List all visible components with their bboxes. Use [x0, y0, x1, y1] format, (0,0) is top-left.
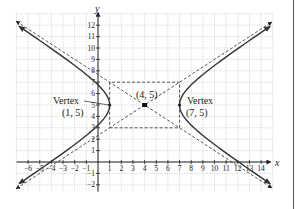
x-axis-label: x [274, 157, 280, 168]
x-tick-label: 8 [189, 164, 193, 173]
y-tick-label: 9 [91, 55, 95, 64]
center-label: (4, 5) [136, 89, 158, 101]
y-axis-label: y [94, 3, 100, 14]
vertex-right-point [178, 103, 181, 106]
x-tick-label: 9 [201, 164, 205, 173]
vertex-left-coords: (1, 5) [62, 107, 84, 119]
vertex-right-coords: (7, 5) [186, 107, 208, 119]
y-tick-label: 4 [91, 112, 95, 121]
x-tick-label: 11 [223, 164, 230, 173]
x-tick-label: 1 [108, 164, 112, 173]
x-tick-label: −2 [71, 164, 79, 173]
x-tick-label: 4 [143, 164, 147, 173]
center-point [142, 103, 147, 107]
x-tick-label: 2 [119, 164, 123, 173]
vertex-right-title: Vertex [187, 95, 213, 106]
x-tick-label: 6 [166, 164, 170, 173]
plot-canvas: −6−5−4−3−2−11234567891011121314−2−112345… [0, 0, 297, 209]
x-tick-label: 3 [131, 164, 135, 173]
y-tick-label: 6 [91, 89, 95, 98]
x-tick-label: 14 [257, 164, 265, 173]
x-tick-label: 10 [211, 164, 219, 173]
x-tick-label: 7 [178, 164, 182, 173]
hyperbola-graph: −6−5−4−3−2−11234567891011121314−2−112345… [0, 0, 297, 209]
x-tick-label: 12 [234, 164, 242, 173]
y-tick-label: −1 [87, 169, 95, 178]
y-tick-label: 1 [91, 146, 95, 155]
vertex-left-leader [84, 101, 109, 105]
y-tick-label: 11 [88, 32, 95, 41]
y-tick-label: 5 [91, 101, 95, 110]
vertex-left-title: Vertex [53, 95, 79, 106]
y-tick-label: −2 [87, 180, 95, 189]
x-tick-label: 5 [154, 164, 158, 173]
y-tick-label: 12 [88, 21, 96, 30]
x-tick-label: −3 [59, 164, 67, 173]
x-tick-label: −6 [24, 164, 32, 173]
y-tick-label: 10 [88, 44, 96, 53]
frame-border [293, 0, 294, 209]
